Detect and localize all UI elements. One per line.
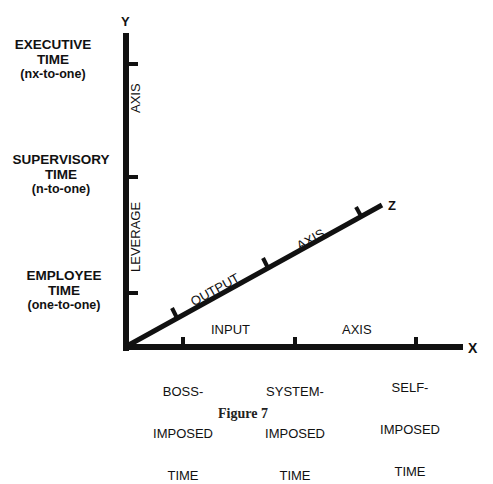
y-level-employee-line3: (one-to-one)	[0, 298, 128, 313]
z-tick-1	[172, 308, 177, 318]
x-level-self-line3: TIME	[355, 465, 465, 479]
y-level-supervisory-line3: (n-to-one)	[0, 182, 122, 197]
x-axis-title-axis: AXIS	[342, 322, 372, 337]
y-level-executive-line2: TIME	[0, 52, 106, 67]
x-level-self-line1: SELF-	[355, 381, 465, 395]
x-level-boss-line2: IMPOSED	[128, 427, 238, 441]
x-level-self: SELF- IMPOSED TIME	[355, 353, 465, 484]
x-level-system-line3: TIME	[240, 469, 350, 483]
y-level-executive: EXECUTIVE TIME (nx-to-one)	[0, 37, 106, 82]
figure-caption: Figure 7	[218, 406, 268, 422]
x-axis-letter: X	[468, 340, 477, 356]
y-axis-title-axis: AXIS	[128, 83, 143, 113]
y-level-employee-line2: TIME	[0, 283, 128, 298]
x-axis-title-input: INPUT	[211, 322, 250, 337]
x-level-system-line1: SYSTEM-	[240, 385, 350, 399]
x-level-boss-line1: BOSS-	[128, 385, 238, 399]
y-level-employee: EMPLOYEE TIME (one-to-one)	[0, 268, 128, 313]
y-level-executive-line3: (nx-to-one)	[0, 67, 106, 82]
y-level-employee-line1: EMPLOYEE	[0, 268, 128, 283]
y-level-supervisory: SUPERVISORY TIME (n-to-one)	[0, 152, 122, 197]
x-level-self-line2: IMPOSED	[355, 423, 465, 437]
y-level-supervisory-line2: TIME	[0, 167, 122, 182]
y-level-supervisory-line1: SUPERVISORY	[0, 152, 122, 167]
y-level-executive-line1: EXECUTIVE	[0, 37, 106, 52]
y-axis-title-leverage: LEVERAGE	[128, 202, 143, 272]
y-axis-letter: Y	[121, 14, 130, 29]
x-level-boss-line3: TIME	[128, 469, 238, 483]
x-level-system-line2: IMPOSED	[240, 427, 350, 441]
z-axis-letter: Z	[388, 198, 396, 213]
z-tick-2	[263, 258, 268, 268]
z-tick-3	[356, 207, 361, 216]
